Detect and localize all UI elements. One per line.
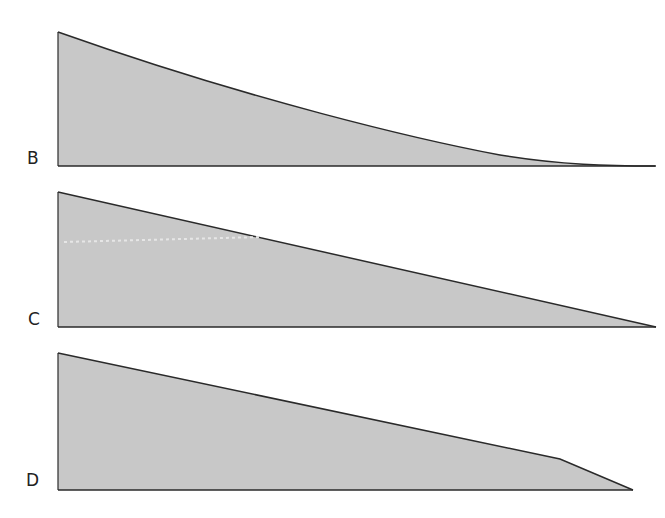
panel-d-label: D bbox=[26, 472, 39, 489]
diagram-canvas bbox=[0, 0, 665, 518]
panel-b-shape bbox=[58, 32, 655, 166]
panel-b-label: B bbox=[27, 150, 39, 167]
panel-c-label: C bbox=[28, 311, 40, 328]
panel-d bbox=[58, 353, 633, 490]
panel-c bbox=[58, 192, 656, 327]
panel-d-shape bbox=[58, 353, 633, 490]
panel-b bbox=[58, 32, 656, 166]
